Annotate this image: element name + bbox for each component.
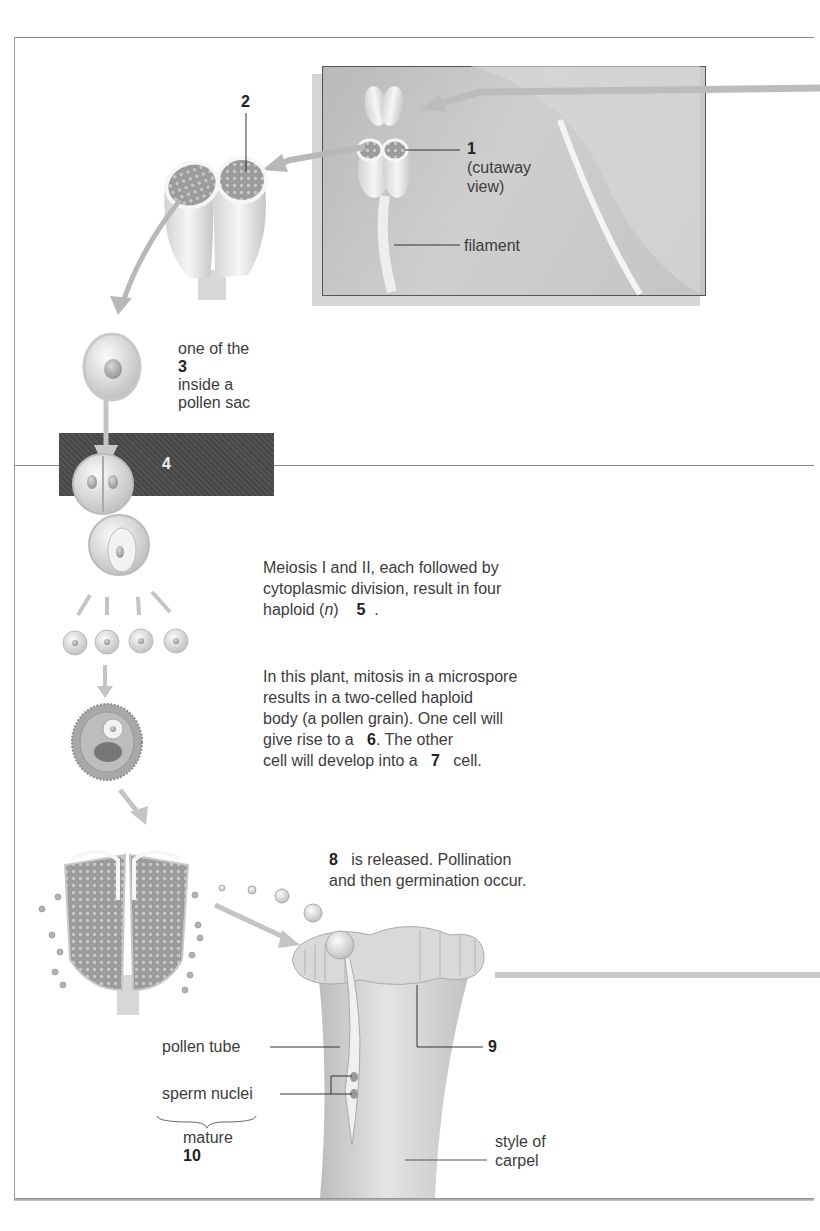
line4-prefix: give rise to a	[263, 731, 354, 748]
line4-end: . The other	[376, 731, 453, 748]
mitosis-line-1: In this plant, mitosis in a microspore	[263, 666, 517, 687]
label-9: 9	[488, 1038, 497, 1056]
pollen-tube-label: pollen tube	[162, 1038, 240, 1056]
filament-label: filament	[464, 237, 520, 255]
mature-anther	[39, 852, 203, 1015]
style-label-group: style of carpel	[495, 1132, 546, 1170]
label-1: 1	[467, 140, 557, 158]
mitosis-line-5: cell will develop into a 7 cell.	[263, 750, 517, 771]
mitosis-line-2: results in a two-celled haploid	[263, 687, 517, 708]
mitosis-description: In this plant, mitosis in a microspore r…	[263, 666, 517, 771]
gray-bar-right	[495, 972, 820, 978]
label-2: 2	[241, 93, 250, 111]
style-line-1: style of	[495, 1132, 546, 1151]
split-arrows	[78, 592, 170, 615]
mitosis-line-3: body (a pollen grain). One cell will	[263, 708, 517, 729]
line5-end: cell.	[453, 752, 481, 769]
label-10-group: mature 10	[183, 1129, 233, 1165]
microspores	[63, 629, 188, 655]
meiosis-line-3: haploid (n) 5 .	[263, 599, 501, 620]
label-3-suffix-1: inside a	[178, 376, 250, 394]
label-3-suffix-2: pollen sac	[178, 394, 250, 412]
label-7: 7	[431, 752, 440, 769]
carpel-style	[293, 927, 485, 1199]
pollen-grain	[72, 704, 142, 780]
meiosis-line-2: cytoplasmic division, result in four	[263, 578, 501, 599]
meiosis-cells	[73, 454, 149, 575]
release-line-2: and then germination occur.	[329, 870, 526, 891]
label-3-prefix: one of the	[178, 340, 250, 358]
haploid-close: )	[333, 601, 338, 618]
label-3: 3	[178, 358, 250, 376]
mitosis-line-4: give rise to a 6. The other	[263, 729, 517, 750]
cutaway-note: (cutaway view)	[467, 158, 557, 196]
label-1-group: 1 (cutaway view)	[467, 140, 557, 196]
sperm-nuclei-label: sperm nuclei	[162, 1085, 253, 1103]
meiosis-line-1: Meiosis I and II, each followed by	[263, 557, 501, 578]
label-8: 8	[329, 851, 338, 868]
label-6: 6	[367, 731, 376, 748]
meiosis-description: Meiosis I and II, each followed by cytop…	[263, 557, 501, 620]
release-description: 8 is released. Pollination and then germ…	[329, 849, 526, 891]
microspore-mother-cell	[84, 334, 140, 400]
haploid-n: n	[324, 601, 333, 618]
line5-prefix: cell will develop into a	[263, 752, 418, 769]
label-10: 10	[183, 1147, 233, 1165]
style-line-2: carpel	[495, 1151, 546, 1170]
label-5: 5	[356, 601, 365, 618]
period: .	[374, 601, 378, 618]
label-3-group: one of the 3 inside a pollen sac	[178, 340, 250, 412]
inset-anther	[358, 84, 411, 292]
haploid-text: haploid (	[263, 601, 324, 618]
release-line-1: 8 is released. Pollination	[329, 849, 526, 870]
brace	[157, 1116, 256, 1128]
release-text-1: is released. Pollination	[351, 851, 511, 868]
mature-text: mature	[183, 1129, 233, 1147]
